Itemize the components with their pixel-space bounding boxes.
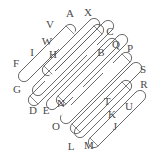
crossing-label-e: E	[43, 105, 50, 116]
crossing-label-i: I	[30, 47, 34, 58]
crossing-label-c: C	[106, 26, 113, 37]
crossing-label-f: F	[13, 58, 19, 69]
knot-diagram-figure: .band { fill: none; stroke: #5a5a5a; str…	[0, 0, 164, 161]
crossing-label-d: D	[29, 105, 37, 116]
crossing-label-w: W	[42, 36, 52, 47]
crossing-label-l: L	[68, 141, 75, 152]
crossing-label-r: R	[140, 79, 147, 90]
crossing-label-o: O	[52, 121, 60, 132]
crossing-label-p: P	[127, 43, 133, 54]
crossing-label-g: G	[13, 84, 21, 95]
crossing-label-s: S	[140, 64, 146, 75]
crossing-label-q: Q	[112, 39, 120, 50]
crossing-label-j: J	[113, 121, 117, 132]
crossing-label-u: U	[125, 101, 133, 112]
band-ne-4	[60, 52, 131, 123]
crossing-label-h: H	[49, 49, 57, 60]
crossing-label-t: T	[104, 96, 111, 107]
crossing-label-k: K	[108, 109, 116, 120]
crossing-label-m: M	[84, 140, 94, 151]
crossing-label-v: V	[46, 19, 54, 30]
crossing-label-b: B	[97, 47, 104, 58]
crossing-label-x: X	[84, 7, 92, 18]
crossing-label-a: A	[66, 8, 74, 19]
crossing-label-n: N	[57, 98, 65, 109]
